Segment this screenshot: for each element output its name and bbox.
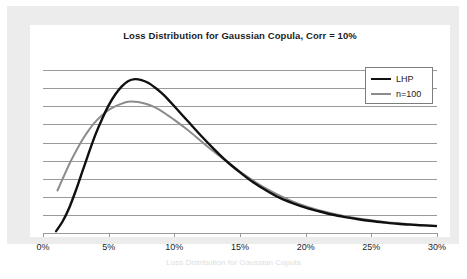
x-tick-label: 20% [284,242,328,252]
legend-item-lhp[interactable]: LHP [366,72,434,86]
legend-swatch-n100 [371,93,391,95]
x-tick-label: 25% [349,242,393,252]
legend-item-n100[interactable]: n=100 [366,87,434,101]
x-tick [240,233,241,237]
x-tick-label: 0% [21,242,65,252]
figure-frame: Loss Distribution for Gaussian Copula, C… [7,6,459,244]
x-tick [371,233,372,237]
x-tick [174,233,175,237]
legend-swatch-lhp [371,78,391,80]
chart-page: Loss Distribution for Gaussian Copula, C… [0,0,467,279]
x-tick-label: 15% [218,242,262,252]
legend-label-lhp: LHP [396,74,414,84]
chart-canvas: Loss Distribution for Gaussian Copula, C… [30,25,450,237]
chart-title: Loss Distribution for Gaussian Copula, C… [30,30,450,41]
x-tick-label: 30% [415,242,459,252]
x-tick-label: 5% [87,242,131,252]
x-tick [43,233,44,237]
x-tick [109,233,110,237]
figure-caption: Loss Distribution for Gaussian Copula [0,258,467,267]
x-tick [306,233,307,237]
chart-legend[interactable]: LHP n=100 [365,67,433,104]
legend-label-n100: n=100 [396,89,421,99]
series-line-n100 [57,102,437,226]
x-tick [437,233,438,237]
x-tick-label: 10% [152,242,196,252]
